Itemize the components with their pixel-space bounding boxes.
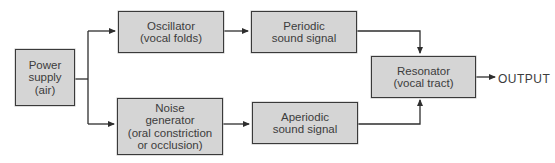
oscillator-line-2: (vocal folds) [140,32,202,45]
periodic-line-1: Periodic [283,20,325,33]
output-label: OUTPUT [498,72,550,86]
power-supply-line-3: (air) [35,84,55,97]
noise-generator-line-1: Noise [155,102,184,115]
aperiodic-signal-box: Aperiodic sound signal [252,102,358,144]
block-diagram: Power supply (air) Oscillator (vocal fol… [0,0,555,163]
noise-generator-line-3: (oral constriction [128,127,212,140]
resonator-box: Resonator (vocal tract) [371,56,476,98]
oscillator-box: Oscillator (vocal folds) [118,11,224,53]
oscillator-line-1: Oscillator [147,20,195,33]
aperiodic-line-2: sound signal [273,123,338,136]
power-supply-line-2: supply [28,71,61,84]
noise-generator-box: Noise generator (oral constriction or oc… [117,98,223,155]
power-supply-box: Power supply (air) [15,49,75,106]
edge-aperiodic-to-resonator [357,100,420,124]
periodic-line-2: sound signal [272,32,337,45]
noise-generator-line-4: or occlusion) [137,139,202,152]
periodic-signal-box: Periodic sound signal [251,11,357,53]
noise-generator-line-2: generator [145,114,194,127]
resonator-line-2: (vocal tract) [393,77,453,90]
power-supply-line-1: Power [29,59,62,72]
aperiodic-line-1: Aperiodic [281,111,329,124]
edge-periodic-to-resonator [356,31,420,53]
resonator-line-1: Resonator [397,65,450,78]
